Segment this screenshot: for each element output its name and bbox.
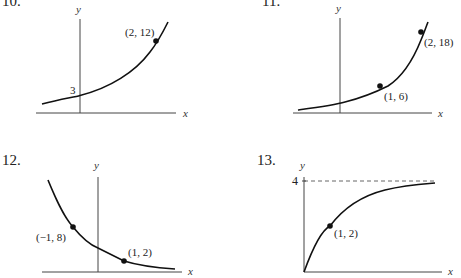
x-axis-label: x bbox=[187, 265, 193, 277]
y-axis-label: y bbox=[75, 3, 81, 15]
point-label: (1, 2) bbox=[334, 227, 358, 240]
x-axis-label: x bbox=[447, 265, 453, 277]
asymptote-label: 4 bbox=[292, 174, 298, 188]
point-marker bbox=[418, 29, 424, 35]
graph-10: x y 3 (2, 12) bbox=[36, 3, 188, 119]
bounded-growth-curve bbox=[304, 183, 435, 272]
point-marker bbox=[327, 223, 333, 229]
graph-11: x y (1, 6) (2, 18) bbox=[293, 2, 454, 119]
y-axis-label: y bbox=[335, 2, 341, 14]
point-label: (−1, 8) bbox=[36, 231, 66, 244]
point-marker bbox=[121, 258, 127, 264]
graph-12: x y (−1, 8) (1, 2) bbox=[36, 159, 193, 277]
y-axis-label: y bbox=[299, 159, 305, 171]
point-marker bbox=[377, 83, 383, 89]
point-marker bbox=[70, 224, 76, 230]
x-axis-label: x bbox=[437, 107, 443, 119]
point-label: (1, 6) bbox=[384, 90, 408, 103]
point-label: (2, 18) bbox=[424, 36, 454, 49]
y-intercept-label: 3 bbox=[70, 84, 76, 96]
point-label: (1, 2) bbox=[128, 246, 152, 259]
point-marker bbox=[153, 38, 159, 44]
point-label: (2, 12) bbox=[125, 26, 155, 39]
y-axis-label: y bbox=[93, 159, 99, 171]
growth-curve bbox=[298, 22, 428, 110]
graphs-canvas: x y 3 (2, 12) x y (1, 6) (2, 18) x y (−1… bbox=[0, 0, 461, 278]
decay-curve bbox=[48, 180, 175, 269]
graph-13: x y 4 (1, 2) bbox=[292, 159, 453, 277]
x-axis-label: x bbox=[182, 107, 188, 119]
